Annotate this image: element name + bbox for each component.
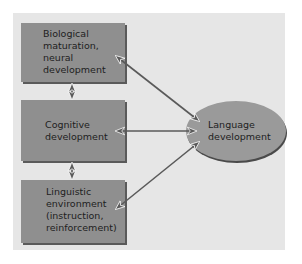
arrows-layer [0,0,302,264]
arrow-biological-language [116,56,199,121]
arrow-linguistic-language [116,142,199,209]
